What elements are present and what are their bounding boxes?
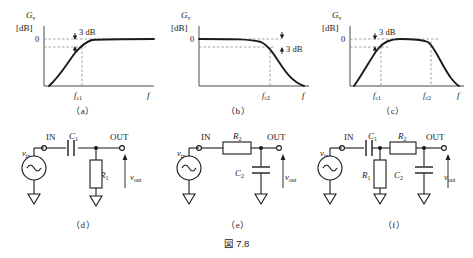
resistor-r1-body-d <box>90 160 102 188</box>
ground-symbol-source-e <box>183 194 195 204</box>
y-axis-label-a: Gv <box>26 10 36 21</box>
zero-tick-b: 0 <box>190 34 194 44</box>
zero-tick-a: 0 <box>35 34 39 44</box>
y-axis-label-b: Gv <box>181 10 191 21</box>
panel-label-e: （e） <box>163 218 313 231</box>
out-terminal-node-d <box>120 146 125 151</box>
y-axis-label-c: Gv <box>332 10 342 21</box>
in-terminal-label-f: IN <box>344 132 354 142</box>
fc1-tick-label-c: fc1 <box>373 90 381 101</box>
response-curve-a <box>49 39 154 86</box>
resistor-r1-label-f: R1 <box>361 170 371 181</box>
fc2-tick-label-b: fc2 <box>262 90 270 101</box>
capacitor-c2-label-f: C2 <box>394 170 403 181</box>
response-curve-c <box>354 39 459 86</box>
out-terminal-label-e: OUT <box>267 132 286 142</box>
drop-annotation-b: 3 dB <box>286 44 303 54</box>
panel-label-c: （c） <box>318 104 468 117</box>
out-voltage-label-f: vout <box>444 172 456 183</box>
drop-arrowhead-top-b <box>280 35 284 40</box>
x-axis-label-a: f <box>147 90 151 100</box>
y-axis-unit-a: [dB] <box>16 23 33 33</box>
out-terminal-label-f: OUT <box>426 132 445 142</box>
panel-label-f: （f） <box>318 218 470 231</box>
panel-label-b: （b） <box>163 104 313 117</box>
circuit-panel-d: IN OUT vin C1 R1 vout <box>8 126 158 238</box>
resistor-r2-body-e <box>223 142 251 154</box>
resistor-r2-label-e: R2 <box>232 131 242 142</box>
figure-sheet: Gv [dB] 0 3 dB fc1 f （a） Gv <box>0 0 473 258</box>
out-voltage-label-d: vout <box>130 172 142 183</box>
ground-symbol-source-d <box>28 194 40 204</box>
plot-panel-b: Gv [dB] 0 3 dB fc2 f （b） <box>163 4 313 122</box>
x-axis-label-c: f <box>457 90 461 100</box>
drop-arrowhead-bottom-b <box>280 47 284 52</box>
out-terminal-label-d: OUT <box>110 132 129 142</box>
out-voltage-label-e: vout <box>285 172 297 183</box>
fc1-tick-label-a: fc1 <box>74 90 82 101</box>
drop-annotation-c: 3 dB <box>379 27 396 37</box>
out-terminal-node-f <box>442 146 447 151</box>
out-voltage-arrowhead-d <box>123 154 128 160</box>
circuit-panel-f: IN OUT vin C1 R1 R2 C2 vout <box>318 126 470 238</box>
circuit-panel-e: IN OUT vin R2 C2 vout <box>163 126 313 238</box>
panel-label-d: （d） <box>8 218 158 231</box>
out-terminal-node-e <box>277 146 282 151</box>
ground-symbol-capacitor-f <box>418 194 430 204</box>
ground-symbol-resistor-d <box>90 196 102 206</box>
zero-tick-c: 0 <box>341 34 345 44</box>
ground-symbol-resistor-f <box>374 194 386 204</box>
resistor-r2-body-f <box>390 142 416 154</box>
out-voltage-arrowhead-f <box>446 154 451 160</box>
figure-caption: 図 7.8 <box>0 236 473 250</box>
fc2-tick-label-c: fc2 <box>423 90 431 101</box>
y-axis-unit-c: [dB] <box>322 23 339 33</box>
x-axis-label-b: f <box>302 90 306 100</box>
drop-annotation-a: 3 dB <box>79 27 96 37</box>
capacitor-c2-label-e: C2 <box>235 168 244 179</box>
in-terminal-label-e: IN <box>201 132 211 142</box>
ground-symbol-capacitor-e <box>255 194 267 204</box>
resistor-r1-body-f <box>374 160 386 188</box>
out-voltage-arrowhead-e <box>281 154 286 160</box>
ground-symbol-source-f <box>324 194 336 204</box>
plot-panel-a: Gv [dB] 0 3 dB fc1 f （a） <box>8 4 158 122</box>
in-terminal-label-d: IN <box>46 132 56 142</box>
plot-panel-c: Gv [dB] 0 3 dB fc1 fc2 f （c） <box>318 4 468 122</box>
y-axis-unit-b: [dB] <box>171 23 188 33</box>
panel-label-a: （a） <box>8 104 158 117</box>
resistor-r2-label-f: R2 <box>397 131 407 142</box>
